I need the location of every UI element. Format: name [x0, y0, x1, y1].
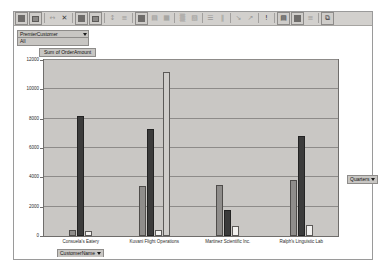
y-axis: 020004000600080001000012000	[17, 59, 43, 237]
bar-qtr1[interactable]	[139, 186, 146, 236]
y-axis-tick-label: 2000	[29, 204, 39, 209]
chart-window: ↔ ✕ ↕ ≡ ▤ ▦ ▒ ▧ ☰ ‖ ↘ ↗ ! ▤ ≡	[13, 11, 373, 260]
chevron-down-icon[interactable]	[97, 252, 101, 255]
chevron-down-icon[interactable]	[371, 178, 375, 181]
angle-text-up-icon[interactable]: ↗	[245, 13, 256, 24]
bar-qtr3[interactable]	[85, 231, 92, 236]
outline-icon[interactable]	[291, 12, 304, 25]
angle-text-down-icon[interactable]: ↘	[233, 13, 244, 24]
pivot-table-wizard-icon[interactable]	[15, 12, 28, 25]
x-axis-label: Kuvani Flight Operations	[118, 239, 192, 244]
page-field-value-label: All	[20, 39, 26, 44]
ungroup-icon[interactable]: ↔	[47, 13, 58, 24]
window-bottom-edge	[14, 257, 372, 259]
chart-type-icon[interactable]: ▦	[161, 13, 172, 24]
bar-qtr2[interactable]	[298, 136, 305, 236]
format-object-icon[interactable]: ▤	[149, 13, 160, 24]
bar-series-container	[44, 60, 338, 236]
data-table-icon[interactable]: ▧	[189, 13, 200, 24]
pivottable-toolbar[interactable]: ↔ ✕ ↕ ≡ ▤ ▦ ▒ ▧ ☰ ‖ ↘ ↗ ! ▤ ≡	[14, 12, 372, 26]
new-window-icon[interactable]: ⧉	[321, 12, 334, 25]
chevron-down-icon[interactable]	[83, 33, 87, 36]
by-column-icon[interactable]: ‖	[217, 13, 228, 24]
chart-title[interactable]: Sum of OrderAmount	[39, 48, 96, 57]
by-row-icon[interactable]: ☰	[205, 13, 216, 24]
hide-detail-icon[interactable]: ✕	[59, 13, 70, 24]
chart-title-label: Sum of OrderAmount	[44, 50, 91, 55]
bar-qtr2[interactable]	[77, 116, 84, 236]
page-field-premiercustomer[interactable]: PremierCustomer All	[17, 30, 89, 46]
y-axis-tick-label: 0	[36, 234, 39, 239]
pivot-table-field-icon[interactable]	[29, 12, 42, 25]
bar-qtr3[interactable]	[232, 226, 239, 236]
field-button-quarters-label: Quarters	[350, 177, 369, 182]
y-axis-tick-label: 6000	[29, 146, 39, 151]
bar-qtr4[interactable]	[163, 72, 170, 236]
x-axis-label: Martinez Scientific Inc.	[191, 239, 265, 244]
refresh-data-icon[interactable]	[89, 12, 102, 25]
subtotal-icon[interactable]: ≡	[305, 13, 316, 24]
x-axis-label: Consuela's Eatery	[44, 239, 118, 244]
exclamation-icon[interactable]: !	[261, 13, 272, 24]
y-axis-tick-label: 10000	[26, 87, 39, 92]
y-axis-tick-label: 12000	[26, 58, 39, 63]
show-detail-icon[interactable]	[75, 12, 88, 25]
bar-qtr2[interactable]	[147, 129, 154, 236]
bar-qtr1[interactable]	[216, 185, 223, 236]
chart-canvas: Sum of OrderAmount 020004000600080001000…	[17, 48, 369, 258]
field-button-quarters[interactable]: Quarters	[347, 175, 378, 184]
bar-qtr1[interactable]	[290, 180, 297, 236]
include-hidden-items-icon[interactable]: ↕	[107, 13, 118, 24]
page-field-value-dropdown[interactable]: All	[17, 38, 89, 46]
bar-qtr3[interactable]	[155, 230, 162, 236]
field-button-customername-label: CustomerName	[60, 251, 95, 256]
x-axis-label: Ralph's Linguistic Lab	[265, 239, 339, 244]
bar-qtr2[interactable]	[224, 210, 231, 236]
field-settings-icon[interactable]: ≡	[119, 13, 130, 24]
y-axis-tick-label: 8000	[29, 116, 39, 121]
bar-qtr3[interactable]	[306, 225, 313, 236]
bar-qtr1[interactable]	[69, 230, 76, 236]
pivotchart-screen: ↔ ✕ ↕ ≡ ▤ ▦ ▒ ▧ ☰ ‖ ↘ ↗ ! ▤ ≡	[0, 0, 386, 274]
page-field-name-label: PremierCustomer	[20, 32, 58, 37]
y-axis-tick-label: 4000	[29, 175, 39, 180]
chart-wizard-icon[interactable]	[135, 12, 148, 25]
legend-icon[interactable]: ▒	[177, 13, 188, 24]
group-icon[interactable]: ▤	[277, 12, 290, 25]
x-axis-category-labels: Consuela's EateryKuvani Flight Operation…	[43, 239, 339, 249]
page-field-name-button[interactable]: PremierCustomer	[17, 30, 89, 38]
